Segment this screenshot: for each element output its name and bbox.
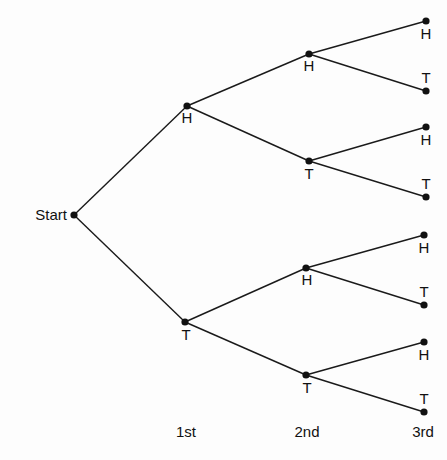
edge-1H-2H — [187, 54, 309, 106]
edge-HT-T — [309, 161, 426, 197]
edge-TT-H — [306, 342, 424, 375]
level-label-2nd: 2nd — [294, 423, 319, 440]
node-3TTH — [420, 338, 427, 345]
probability-tree-diagram: Start H T H T H T H T H T H T H T 1st 2n… — [0, 0, 447, 460]
node-2HT — [305, 157, 312, 164]
node-label-3HHH: H — [421, 25, 432, 42]
node-label-3THT: T — [419, 283, 428, 300]
tree-labels: Start H T H T H T H T H T H T H T 1st 2n… — [35, 25, 434, 440]
edge-1H-2T — [187, 106, 309, 161]
edge-1T-2H — [185, 268, 306, 322]
node-label-3TTT: T — [419, 390, 428, 407]
level-label-1st: 1st — [176, 423, 197, 440]
node-3HTT — [422, 193, 429, 200]
node-3THT — [420, 301, 427, 308]
node-2TT — [302, 371, 309, 378]
edge-HH-H — [309, 21, 426, 54]
node-3HHT — [422, 87, 429, 94]
node-label-1H: H — [182, 109, 193, 126]
edge-start-1T — [74, 215, 185, 322]
node-label-2HT: T — [304, 165, 313, 182]
edge-HT-H — [309, 127, 426, 161]
tree-edges — [74, 21, 426, 412]
edge-HH-T — [309, 54, 426, 91]
node-label-3HTH: H — [421, 131, 432, 148]
node-label-3THH: H — [419, 239, 430, 256]
node-3THH — [420, 231, 427, 238]
edge-TT-T — [306, 375, 424, 412]
node-1T — [181, 318, 188, 325]
start-label: Start — [35, 206, 68, 223]
edge-TH-H — [306, 235, 424, 268]
node-3HTH — [422, 123, 429, 130]
node-label-2HH: H — [304, 57, 315, 74]
node-3HHH — [422, 17, 429, 24]
node-label-3HTT: T — [421, 175, 430, 192]
level-label-3rd: 3rd — [412, 423, 434, 440]
node-label-3TTH: H — [419, 346, 430, 363]
node-3TTT — [420, 408, 427, 415]
edge-TH-T — [306, 268, 424, 305]
node-label-2TH: H — [302, 271, 313, 288]
node-label-3HHT: T — [421, 69, 430, 86]
node-label-2TT: T — [302, 379, 311, 396]
edge-1T-2T — [185, 322, 306, 375]
node-label-1T: T — [181, 326, 190, 343]
edge-start-1H — [74, 106, 187, 215]
node-start — [70, 211, 77, 218]
